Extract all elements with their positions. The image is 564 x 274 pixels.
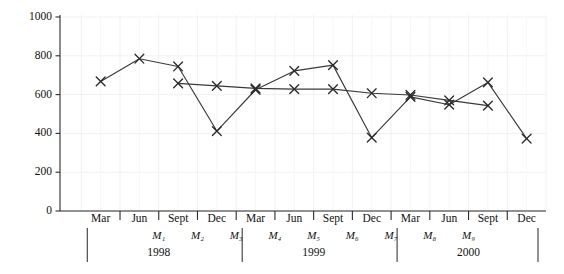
year-group-label: 2000 xyxy=(444,247,494,259)
y-axis-tick-label: 1000 xyxy=(29,11,52,23)
x-axis-tick-label: Dec xyxy=(505,213,549,225)
x-axis-tick-label: Dec xyxy=(195,213,239,225)
period-marker-m3: M₃ xyxy=(222,230,250,241)
y-axis-ticks xyxy=(56,17,61,211)
year-group-label: 1998 xyxy=(134,247,184,259)
period-marker-m1: M₁ xyxy=(145,230,173,241)
y-axis-tick-label: 400 xyxy=(35,127,52,139)
gridlines xyxy=(60,15,546,211)
x-axis-tick-label: Mar xyxy=(234,213,278,225)
x-axis-tick-label: Sept xyxy=(466,213,510,225)
x-axis-tick-label: Mar xyxy=(388,213,432,225)
y-axis-tick-label: 800 xyxy=(35,50,52,62)
period-marker-m8: M₈ xyxy=(416,230,444,241)
x-axis-tick-label: Jun xyxy=(117,213,161,225)
period-marker-m7: M₇ xyxy=(377,230,405,241)
x-axis-tick-label: Jun xyxy=(272,213,316,225)
y-axis-tick-label: 600 xyxy=(35,89,52,101)
period-marker-m4: M₄ xyxy=(261,230,289,241)
period-marker-m2: M₂ xyxy=(183,230,211,241)
x-axis-tick-label: Mar xyxy=(79,213,123,225)
axes xyxy=(60,15,546,211)
period-marker-m5: M₅ xyxy=(300,230,328,241)
period-marker-m6: M₆ xyxy=(338,230,366,241)
x-axis-tick-label: Dec xyxy=(350,213,394,225)
x-axis-tick-label: Sept xyxy=(311,213,355,225)
x-axis-tick-label: Jun xyxy=(427,213,471,225)
y-axis-tick-label: 200 xyxy=(35,166,52,178)
y-axis-tick-label: 0 xyxy=(46,205,52,217)
line-chart: 02004006008001000 MarJunSeptDecMarJunSep… xyxy=(0,0,564,274)
year-group-label: 1999 xyxy=(289,247,339,259)
x-axis-tick-label: Sept xyxy=(156,213,200,225)
period-marker-m9: M₉ xyxy=(455,230,483,241)
